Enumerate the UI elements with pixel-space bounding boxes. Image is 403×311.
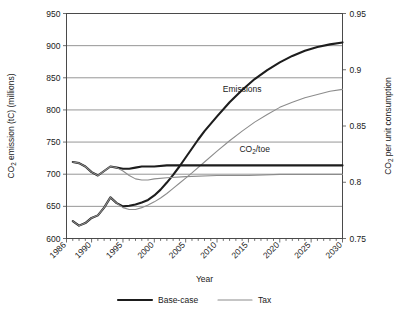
x-tick-label: 2005 — [167, 240, 188, 261]
chart-svg: 6006507007508008509009500.750.80.850.90.… — [0, 0, 403, 311]
x-tick-label: 2020 — [261, 240, 282, 261]
x-axis-title: Year — [196, 274, 213, 284]
y2-axis-title: CO2 per unit consumption — [383, 77, 394, 175]
y-right-tick-label: 0.95 — [350, 9, 367, 19]
y-right-tick-label: 0.75 — [350, 234, 367, 244]
legend-label-tax: Tax — [258, 295, 272, 305]
y-left-tick-label: 950 — [46, 9, 60, 19]
y-left-tick-label: 800 — [46, 105, 60, 115]
series-line-co2-toe-base-case — [73, 162, 343, 176]
x-tick-label: 1995 — [104, 240, 125, 261]
x-tick-label: 2030 — [323, 240, 344, 261]
x-tick-label: 2025 — [292, 240, 313, 261]
y-left-tick-label: 750 — [46, 137, 60, 147]
x-tick-label: 1990 — [73, 240, 94, 261]
y-left-tick-label: 900 — [46, 41, 60, 51]
series-line-emissions-base-case — [73, 42, 343, 225]
x-tick-label: 2010 — [198, 240, 219, 261]
y-right-tick-label: 0.85 — [350, 121, 367, 131]
y-axis-title: CO2 emission (tC) (millions) — [6, 73, 17, 178]
y-right-tick-label: 0.9 — [350, 65, 362, 75]
chart-figure: 6006507007508008509009500.750.80.850.90.… — [0, 0, 403, 311]
y-left-tick-label: 700 — [46, 169, 60, 179]
y-right-tick-label: 0.8 — [350, 177, 362, 187]
legend-label-base-case: Base-case — [158, 295, 198, 305]
annotation-co2-per-toe: CO2/toe — [239, 144, 270, 155]
x-tick-label: 2000 — [135, 240, 156, 261]
y-left-tick-label: 850 — [46, 73, 60, 83]
x-tick-label: 2015 — [229, 240, 250, 261]
plot-frame — [67, 14, 343, 239]
annotation-emissions: Emissions — [223, 84, 262, 94]
y-left-tick-label: 650 — [46, 201, 60, 211]
